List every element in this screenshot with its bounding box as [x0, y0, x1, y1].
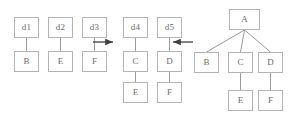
node-f-right: F — [258, 90, 283, 111]
left-forest-edges — [27, 38, 95, 51]
node-f-left: F — [82, 51, 107, 72]
node-d4: d4 — [123, 17, 148, 38]
node-f-middle: F — [157, 82, 182, 103]
edge-a-c — [241, 30, 245, 52]
edge-a-b — [207, 30, 245, 52]
node-c-middle: C — [123, 51, 148, 72]
node-e-middle: E — [123, 82, 148, 103]
node-a-root: A — [229, 9, 260, 30]
node-d-right: D — [258, 52, 283, 73]
node-d-middle: D — [157, 51, 182, 72]
edge-a-d — [245, 30, 271, 52]
node-b-left: B — [14, 51, 39, 72]
node-b-right: B — [194, 52, 219, 73]
node-d5: d5 — [157, 17, 182, 38]
node-d2: d2 — [48, 17, 73, 38]
node-e-right: E — [228, 90, 253, 111]
diagram-canvas: d1 B d2 E d3 F d4 C E d5 D F A B C D E F — [0, 0, 289, 121]
node-e-left: E — [48, 51, 73, 72]
node-c-right: C — [228, 52, 253, 73]
node-d3: d3 — [82, 17, 107, 38]
node-d1: d1 — [14, 17, 39, 38]
